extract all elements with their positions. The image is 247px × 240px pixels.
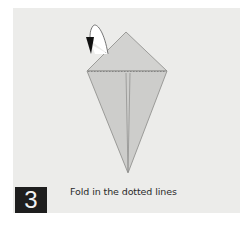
step-caption: Fold in the dotted lines: [70, 186, 177, 197]
step-number-badge: 3: [15, 187, 47, 213]
fold-arrow-icon: [86, 25, 108, 54]
